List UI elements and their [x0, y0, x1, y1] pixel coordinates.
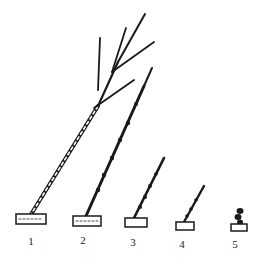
label-4: 4 [175, 238, 189, 250]
figure-canvas: 1 2 3 4 5 [0, 0, 257, 264]
cutting-2 [73, 68, 152, 226]
label-2: 2 [76, 234, 90, 246]
cutting-1 [16, 14, 154, 224]
cutting-3 [125, 158, 164, 227]
label-5: 5 [228, 238, 242, 250]
cuttings-drawing [0, 0, 257, 264]
cutting-4 [176, 186, 204, 230]
cutting-5 [231, 208, 247, 231]
label-3: 3 [126, 236, 140, 248]
label-1: 1 [24, 235, 38, 247]
